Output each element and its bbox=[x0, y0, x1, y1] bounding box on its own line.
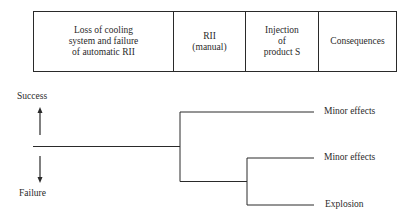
outcome-explosion: Explosion bbox=[325, 199, 364, 209]
arrow-down-icon bbox=[38, 156, 43, 183]
tree-branches bbox=[33, 112, 314, 205]
outcome-minor-effects-2: Minor effects bbox=[324, 152, 375, 162]
arrow-up-icon bbox=[38, 107, 43, 135]
outcome-minor-effects-1: Minor effects bbox=[324, 106, 375, 116]
